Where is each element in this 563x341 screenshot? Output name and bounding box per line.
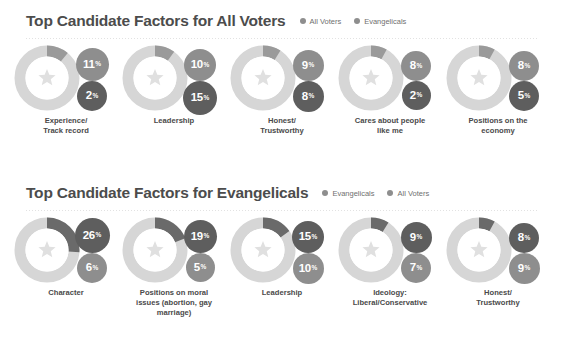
factor-group: 10% 15% Leadership [120, 45, 228, 126]
bubble-percent-sign: % [308, 93, 314, 100]
divider [26, 210, 537, 211]
legend-item: Evangelicals [322, 189, 374, 198]
legend-item: All Voters [387, 189, 429, 198]
value-bubble: 8% [293, 81, 324, 112]
infographic-canvas: Top Candidate Factors for All Voters All… [0, 0, 563, 341]
value-bubble: 5% [509, 81, 539, 111]
page-title: Top Candidate Factors for All Voters [26, 12, 286, 30]
bubble-percent-sign: % [92, 265, 98, 272]
bubble-value: 7 [410, 262, 416, 274]
bubble-value: 15 [191, 92, 203, 104]
section-header: Top Candidate Factors for All Voters All… [0, 8, 563, 34]
legend-dot-icon [354, 18, 360, 24]
legend-dot-icon [322, 190, 328, 196]
factor-label: Ideology:Liberal/Conservative [336, 288, 444, 308]
bubble-percent-sign: % [524, 235, 530, 242]
bubble-pair: 15% 10% [282, 218, 334, 282]
factor-label: Honest/Trustworthy [228, 116, 336, 136]
bubble-value: 10 [299, 263, 311, 275]
bubble-percent-sign: % [200, 264, 206, 271]
factor-group: 26% 6% Character [12, 217, 120, 298]
bubble-percent-sign: % [311, 265, 317, 272]
bubble-percent-sign: % [203, 62, 209, 69]
factor-visual: 19% 5% [122, 217, 226, 283]
factor-visual: 8% 2% [338, 45, 442, 111]
factor-label: Leadership [120, 116, 228, 126]
value-bubble: 9% [509, 253, 540, 284]
bubble-percent-sign: % [203, 233, 209, 240]
factor-label: Positions on theeconomy [444, 116, 552, 136]
bubble-percent-sign: % [416, 265, 422, 272]
bubble-value: 10 [191, 59, 203, 71]
bubble-value: 26 [83, 230, 95, 242]
legend-label: Evangelicals [364, 17, 406, 26]
factor-visual: 11% 2% [14, 45, 118, 111]
bubble-value: 19 [191, 231, 203, 243]
bubble-value: 9 [518, 263, 524, 275]
factor-group: 9% 8% Honest/Trustworthy [228, 45, 336, 136]
value-bubble: 6% [77, 253, 107, 283]
value-bubble: 15% [183, 81, 217, 115]
legend-label: All Voters [397, 189, 429, 198]
bubble-value: 8 [518, 232, 524, 244]
group-row: 26% 6% Character 19% 5% Pos [0, 217, 563, 318]
value-bubble: 2% [77, 81, 107, 111]
factor-label: Honest/Trustworthy [444, 288, 552, 308]
value-bubble: 15% [292, 221, 324, 253]
bubble-pair: 10% 15% [174, 46, 226, 110]
bubble-value: 15 [299, 231, 311, 243]
legend-label: Evangelicals [332, 189, 374, 198]
bubble-percent-sign: % [95, 232, 101, 239]
legend-label: All Voters [310, 17, 342, 26]
bubble-value: 9 [302, 60, 308, 72]
bubble-pair: 19% 5% [174, 218, 226, 282]
value-bubble: 8% [401, 51, 431, 81]
bubble-value: 8 [518, 60, 524, 72]
factor-label: Positions on moralissues (abortion, gaym… [120, 288, 228, 318]
factor-visual: 8% 9% [446, 217, 550, 283]
bubble-value: 5 [194, 262, 200, 274]
factor-group: 8% 5% Positions on theeconomy [444, 45, 552, 136]
bubble-percent-sign: % [524, 265, 530, 272]
value-bubble: 19% [184, 220, 217, 253]
bubble-value: 5 [518, 90, 524, 102]
value-bubble: 2% [402, 81, 431, 110]
section-evangelicals: Top Candidate Factors for Evangelicals E… [0, 180, 563, 318]
bubble-percent-sign: % [95, 61, 101, 68]
bubble-value: 6 [86, 262, 92, 274]
value-bubble: 10% [293, 253, 324, 284]
legend-dot-icon [387, 190, 393, 196]
divider [26, 38, 537, 39]
bubble-percent-sign: % [311, 234, 317, 241]
value-bubble: 5% [186, 253, 215, 282]
bubble-pair: 8% 2% [390, 46, 442, 110]
value-bubble: 7% [401, 253, 431, 283]
group-row: 11% 2% Experience/Track record 10% 15% [0, 45, 563, 136]
factor-visual: 9% 7% [338, 217, 442, 283]
factor-label: Character [12, 288, 120, 298]
bubble-pair: 8% 9% [498, 218, 550, 282]
bubble-pair: 11% 2% [66, 46, 118, 110]
legend-item: Evangelicals [354, 17, 406, 26]
bubble-percent-sign: % [203, 95, 209, 102]
value-bubble: 9% [293, 50, 324, 81]
bubble-value: 8 [302, 91, 308, 103]
factor-group: 8% 9% Honest/Trustworthy [444, 217, 552, 308]
section-header: Top Candidate Factors for Evangelicals E… [0, 180, 563, 206]
legend: All Voters Evangelicals [300, 17, 407, 26]
bubble-value: 2 [86, 90, 92, 102]
bubble-percent-sign: % [92, 93, 98, 100]
factor-label: Experience/Track record [12, 116, 120, 136]
factor-label: Cares about peoplelike me [336, 116, 444, 136]
bubble-value: 9 [410, 232, 416, 244]
factor-group: 9% 7% Ideology:Liberal/Conservative [336, 217, 444, 308]
bubble-pair: 26% 6% [66, 218, 118, 282]
factor-visual: 9% 8% [230, 45, 334, 111]
bubble-percent-sign: % [524, 63, 530, 70]
factor-label: Leadership [228, 288, 336, 298]
bubble-value: 8 [410, 60, 416, 72]
legend-dot-icon [300, 18, 306, 24]
factor-group: 8% 2% Cares about peoplelike me [336, 45, 444, 136]
bubble-percent-sign: % [416, 63, 422, 70]
factor-visual: 8% 5% [446, 45, 550, 111]
